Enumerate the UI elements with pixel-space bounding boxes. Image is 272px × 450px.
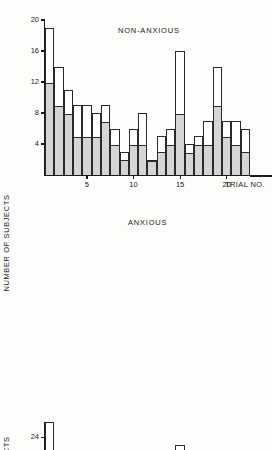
bar-anxious-trial-22 [241,422,250,450]
bar-shaded-segment [130,145,137,175]
bar-non-anxious-trial-19 [213,20,222,175]
bar-shaded-segment [214,106,221,175]
bar-shaded-segment [186,153,193,176]
x-tick-label: 5 [85,180,89,189]
x-axis-label-top: TRIAL NO. [225,180,265,189]
y-tick-mark [41,112,45,113]
bar-total-segment [213,67,222,176]
x-tick-mark [180,175,181,179]
bar-total-segment [203,121,212,175]
bar-shaded-segment [204,145,211,175]
bar-anxious-trial-12 [147,422,156,450]
bar-total-segment [45,28,54,175]
bar-anxious-trial-15 [175,422,184,450]
bar-total-segment [194,136,203,175]
bar-shaded-segment [167,145,174,175]
bar-anxious-trial-14 [166,422,175,450]
bar-non-anxious-trial-11 [138,20,147,175]
bar-non-anxious-trial-10 [129,20,138,175]
bar-non-anxious-trial-4 [73,20,82,175]
bar-anxious-trial-16 [185,422,194,450]
bar-anxious-trial-6 [92,422,101,450]
bar-non-anxious-trial-14 [166,20,175,175]
y-axis-label-bottom: NUMBER OF SUBJECTS [2,410,11,450]
bar-non-anxious-trial-12 [147,20,156,175]
bar-shaded-segment [148,161,155,176]
bar-shaded-segment [223,137,230,175]
bar-shaded-segment [46,83,53,175]
y-tick-label: 20 [31,15,39,24]
bar-non-anxious-trial-9 [120,20,129,175]
bar-total-segment [241,129,250,176]
bar-anxious-trial-19 [213,422,222,450]
bar-shaded-segment [83,137,90,175]
bar-anxious-trial-1 [45,422,54,450]
bar-series-non-anxious [45,20,250,175]
bar-anxious-trial-3 [64,422,73,450]
y-tick-mark [41,19,45,20]
y-tick-mark [41,81,45,82]
bar-non-anxious-trial-16 [185,20,194,175]
bar-anxious-trial-9 [120,422,129,450]
chart-title-anxious: ANXIOUS [128,218,167,227]
bar-anxious-trial-4 [73,422,82,450]
bar-shaded-segment [242,152,249,175]
bar-total-segment [101,105,110,175]
bar-shaded-segment [158,152,165,175]
bar-total-segment [64,90,73,175]
x-tick-mark [226,175,227,179]
bar-non-anxious-trial-22 [241,20,250,175]
bar-total-segment [92,113,101,175]
bar-total-segment [82,105,91,175]
bar-shaded-segment [65,114,72,175]
bar-total-segment [222,121,231,175]
bar-shaded-segment [139,145,146,176]
bar-non-anxious-trial-6 [92,20,101,175]
bar-anxious-trial-17 [194,422,203,450]
bar-shaded-segment [195,145,202,175]
bar-total-segment [120,152,129,175]
bar-total-segment [110,129,119,176]
bar-shaded-segment [74,137,81,175]
bar-non-anxious-trial-20 [222,20,231,175]
bar-total-segment [45,422,54,450]
bar-total-segment [166,129,175,176]
x-tick-mark [86,175,87,179]
bar-shaded-segment [176,114,183,176]
bar-total-segment [147,160,156,176]
bar-total-segment [73,105,82,175]
bar-anxious-trial-8 [110,422,119,450]
bar-shaded-segment [232,145,239,175]
bar-total-segment [175,51,184,175]
bar-anxious-trial-18 [203,422,212,450]
bar-anxious-trial-11 [138,422,147,450]
bar-total-segment [138,113,147,175]
bar-total-segment [54,67,63,176]
bar-anxious-trial-2 [54,422,63,450]
bar-total-segment [185,144,194,175]
x-tick-mark [133,175,134,179]
bar-non-anxious-trial-17 [194,20,203,175]
bar-total-segment [129,129,138,176]
figure-page: NUMBER OF SUBJECTS NON-ANXIOUS 48121620 … [0,0,272,450]
bar-shaded-segment [55,106,62,175]
bar-anxious-trial-10 [129,422,138,450]
bar-anxious-trial-21 [231,422,240,450]
chart-panel-non-anxious: NUMBER OF SUBJECTS NON-ANXIOUS 48121620 … [0,0,272,200]
y-tick-label: 12 [31,77,39,86]
bar-non-anxious-trial-21 [231,20,240,175]
bar-non-anxious-trial-5 [82,20,91,175]
bar-shaded-segment [111,145,118,175]
bar-non-anxious-trial-15 [175,20,184,175]
y-tick-label: 4 [35,139,39,148]
bar-total-segment [231,121,240,175]
bar-total-segment [175,445,184,450]
bar-anxious-trial-20 [222,422,231,450]
bar-anxious-trial-5 [82,422,91,450]
bar-non-anxious-trial-8 [110,20,119,175]
bar-non-anxious-trial-7 [101,20,110,175]
bar-shaded-segment [121,160,128,175]
x-tick-label: 15 [176,180,184,189]
bar-non-anxious-trial-2 [54,20,63,175]
plot-area-non-anxious: 48121620 5101520 TRIAL NO. [44,20,250,176]
